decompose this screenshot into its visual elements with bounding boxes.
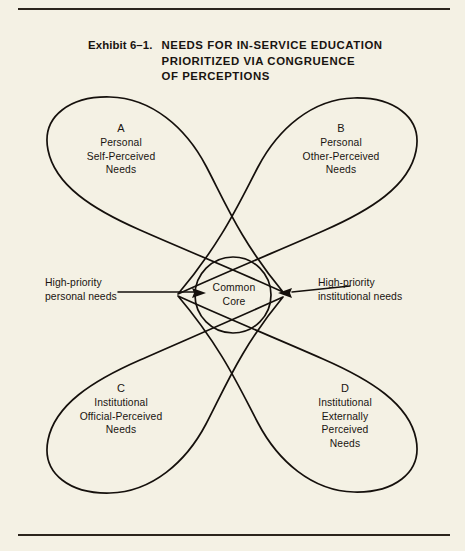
petal-c-line-2: Official-Perceived: [80, 411, 163, 422]
petal-d-line-3: Perceived: [322, 424, 369, 435]
annotation-left-line-2: personal needs: [45, 291, 117, 302]
annotation-right-line-1: High-priority: [318, 277, 375, 288]
petal-d-line-4: Needs: [330, 438, 360, 449]
common-core-label: Common Core: [196, 281, 272, 308]
petal-label-d: D Institutional Externally Perceived Nee…: [282, 382, 408, 450]
petal-a-line-2: Self-Perceived: [87, 151, 156, 162]
petal-letter-d: D: [282, 382, 408, 396]
annotation-left-line-1: High-priority: [45, 277, 102, 288]
common-core-line-1: Common: [213, 282, 256, 293]
petal-c-line-3: Needs: [106, 424, 136, 435]
petal-label-b: B Personal Other-Perceived Needs: [278, 122, 404, 177]
petal-d-line-2: Externally: [322, 411, 368, 422]
bottom-divider-rule: [18, 534, 450, 536]
petal-letter-b: B: [278, 122, 404, 136]
petal-a-line-3: Needs: [106, 164, 136, 175]
exhibit-figure: Exhibit 6–1. NEEDS FOR IN-SERVICE EDUCAT…: [0, 0, 465, 551]
annotation-high-priority-personal: High-priority personal needs: [45, 276, 117, 303]
annotation-high-priority-institutional: High-priority institutional needs: [318, 276, 402, 303]
petal-letter-c: C: [58, 382, 184, 396]
annotation-right-line-2: institutional needs: [318, 291, 402, 302]
petal-b-line-2: Other-Perceived: [303, 151, 380, 162]
petal-b-line-3: Needs: [326, 164, 356, 175]
petal-d-line-1: Institutional: [318, 397, 372, 408]
common-core-line-2: Core: [223, 296, 246, 307]
petal-letter-a: A: [58, 122, 184, 136]
petal-a-line-1: Personal: [100, 137, 142, 148]
petal-c-line-1: Institutional: [94, 397, 148, 408]
petal-label-c: C Institutional Official-Perceived Needs: [58, 382, 184, 437]
petal-b-line-1: Personal: [320, 137, 362, 148]
petal-label-a: A Personal Self-Perceived Needs: [58, 122, 184, 177]
